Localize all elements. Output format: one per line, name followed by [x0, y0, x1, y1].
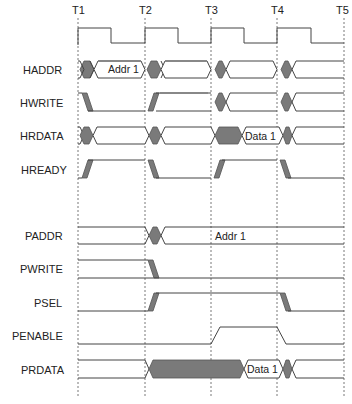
- signal-penable: PENABLE: [12, 327, 344, 344]
- signal-psel: PSEL: [34, 293, 344, 311]
- haddr-value: Addr 1: [108, 63, 139, 75]
- signal-paddr: PADDR Addr 1: [25, 227, 344, 244]
- signal-pwrite: PWRITE: [20, 260, 344, 278]
- prdata-value: Data 1: [247, 363, 278, 375]
- signal-hwrite: HWRITE: [20, 93, 344, 111]
- hrdata-value: Data 1: [245, 130, 276, 142]
- clock-waveform: [78, 28, 344, 45]
- timing-diagram: T1 T2 T3 T4 T5 HADDR Addr 1 HWRI: [0, 0, 352, 404]
- signal-label-hrdata: HRDATA: [20, 130, 64, 142]
- time-marker-t5: T5: [336, 4, 349, 16]
- signal-label-paddr: PADDR: [25, 230, 63, 242]
- signal-label-prdata: PRDATA: [21, 364, 65, 376]
- signal-label-penable: PENABLE: [12, 330, 63, 342]
- signal-label-haddr: HADDR: [23, 64, 62, 76]
- time-marker-t4: T4: [271, 4, 284, 16]
- signal-prdata: PRDATA Data 1: [21, 360, 344, 378]
- time-marker-t1: T1: [72, 4, 85, 16]
- signal-hready: HREADY: [21, 160, 344, 178]
- signal-label-psel: PSEL: [34, 297, 62, 309]
- time-marker-t2: T2: [139, 4, 152, 16]
- time-marker-t3: T3: [205, 4, 218, 16]
- signal-label-pwrite: PWRITE: [20, 263, 63, 275]
- signal-label-hready: HREADY: [21, 164, 68, 176]
- signal-haddr: HADDR Addr 1: [23, 61, 344, 78]
- paddr-value: Addr 1: [215, 230, 246, 242]
- signal-hrdata: HRDATA Data 1: [20, 127, 344, 144]
- time-markers: T1 T2 T3 T4 T5: [72, 4, 349, 16]
- signal-label-hwrite: HWRITE: [20, 97, 63, 109]
